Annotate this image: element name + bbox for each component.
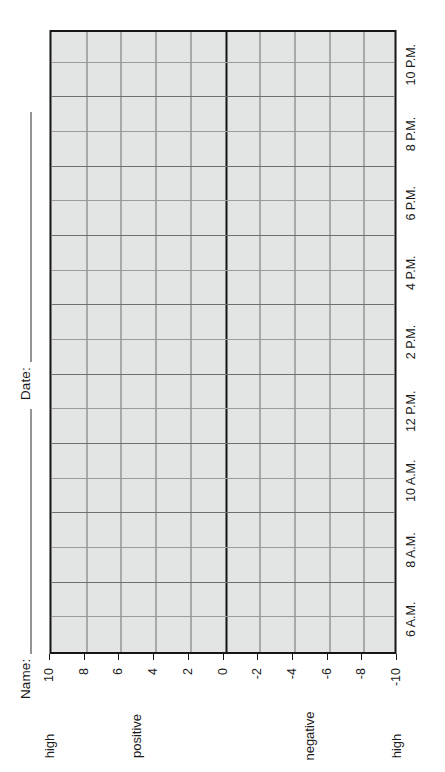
time-tick-label-8pm: 8 P.M. <box>404 99 417 169</box>
gridline-time-13 <box>51 200 394 201</box>
time-tick-label-10am: 10 A.M. <box>404 446 417 516</box>
time-tick-label-10pm: 10 P.M. <box>404 30 417 100</box>
value-tick-label--8: -8 <box>355 660 368 772</box>
value-tick-label-6: 6 <box>112 660 125 772</box>
gridline-time-14 <box>51 166 394 167</box>
gridline-time-15 <box>51 131 394 132</box>
value-tick-mark--2 <box>257 654 258 660</box>
chart-plot-area[interactable] <box>49 30 396 654</box>
time-tick-label-6am: 6 A.M. <box>404 584 417 654</box>
value-tick-label-2: 2 <box>182 660 195 772</box>
gridline-time-16 <box>51 96 394 97</box>
gridline-time-9 <box>51 339 394 340</box>
value-tick-label-8: 8 <box>77 660 90 772</box>
time-tick-label-8am: 8 A.M. <box>404 515 417 585</box>
gridline-value--2 <box>259 32 260 652</box>
worksheet-sheet: Name: Date: 1086420-2-4-6-8-10positivene… <box>0 0 445 772</box>
name-field[interactable]: Name: <box>18 409 33 699</box>
gridline-time-11 <box>51 270 394 271</box>
value-axis-positive-label: positive <box>129 700 142 772</box>
value-axis-high-label-negative: high <box>390 720 403 772</box>
gridline-value--6 <box>329 32 330 652</box>
value-tick-label--2: -2 <box>251 660 264 772</box>
value-axis-negative-label: negative <box>303 700 316 772</box>
gridline-time-4 <box>51 512 394 513</box>
value-tick-mark-8 <box>83 654 84 660</box>
gridline-time-10 <box>51 304 394 305</box>
worksheet-page: Name: Date: 1086420-2-4-6-8-10positivene… <box>0 0 445 772</box>
gridline-time-3 <box>51 547 394 548</box>
gridline-time-17 <box>51 62 394 63</box>
gridline-time-12 <box>51 235 394 236</box>
date-field-rule[interactable] <box>30 112 31 362</box>
gridline-value--4 <box>294 32 295 652</box>
date-field[interactable]: Date: <box>18 112 33 400</box>
time-tick-label-12pm: 12 P.M. <box>404 376 417 446</box>
value-tick-mark-6 <box>118 654 119 660</box>
value-tick-mark-4 <box>153 654 154 660</box>
value-axis-high-label-positive: high <box>43 720 56 772</box>
chart-gridlines <box>51 32 394 652</box>
date-field-label: Date: <box>18 367 33 400</box>
gridline-time-6 <box>51 443 394 444</box>
gridline-value-6 <box>120 32 121 652</box>
value-tick-label--6: -6 <box>320 660 333 772</box>
value-tick-mark--4 <box>291 654 292 660</box>
gridline-value--8 <box>363 32 364 652</box>
value-tick-label-4: 4 <box>147 660 160 772</box>
value-tick-label--4: -4 <box>286 660 299 772</box>
time-tick-label-2pm: 2 P.M. <box>404 307 417 377</box>
name-field-label: Name: <box>18 659 33 699</box>
gridline-value-4 <box>155 32 156 652</box>
time-tick-label-6pm: 6 P.M. <box>404 168 417 238</box>
value-tick-mark--8 <box>361 654 362 660</box>
gridline-value-8 <box>86 32 87 652</box>
value-tick-mark-10 <box>49 654 50 660</box>
name-field-rule[interactable] <box>30 409 31 654</box>
gridline-time-7 <box>51 408 394 409</box>
value-tick-mark--10 <box>396 654 397 660</box>
gridline-value-2 <box>190 32 191 652</box>
value-tick-mark--6 <box>326 654 327 660</box>
value-tick-label-0: 0 <box>216 660 229 772</box>
gridline-time-2 <box>51 582 394 583</box>
gridline-time-5 <box>51 478 394 479</box>
gridline-time-1 <box>51 616 394 617</box>
gridline-time-8 <box>51 374 394 375</box>
value-tick-mark-0 <box>222 654 223 660</box>
value-tick-mark-2 <box>187 654 188 660</box>
time-tick-label-4pm: 4 P.M. <box>404 238 417 308</box>
gridline-zero <box>225 32 227 652</box>
